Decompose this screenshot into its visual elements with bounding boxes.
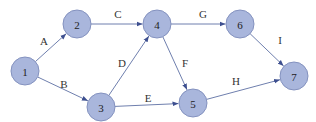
edge-5-7 [207,80,281,100]
edge-3-5 [115,104,179,107]
edge-label-c: C [114,8,121,20]
node-label: 1 [22,66,28,78]
edge-label-f: F [182,57,188,69]
node-label: 7 [291,71,297,83]
edge-3-4 [109,36,149,95]
node-4: 4 [143,10,171,38]
node-3: 3 [87,93,115,121]
edge-label-i: I [278,34,282,46]
edge-label-e: E [145,92,152,104]
edge-label-d: D [118,57,126,69]
node-6: 6 [226,10,254,38]
edge-label-h: H [232,75,240,87]
edge-label-g: G [199,8,207,20]
network-diagram: ABCDEFGHI 1234567 [0,0,316,122]
node-label: 3 [98,102,104,114]
node-label: 4 [154,19,160,31]
edge-label-a: A [40,35,48,47]
node-1: 1 [11,57,39,85]
node-5: 5 [179,89,207,117]
node-label: 2 [74,19,80,31]
node-label: 5 [190,98,196,110]
node-2: 2 [63,10,91,38]
node-7: 7 [280,62,308,90]
edge-label-b: B [60,78,67,90]
node-label: 6 [237,19,243,31]
